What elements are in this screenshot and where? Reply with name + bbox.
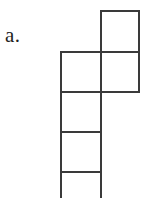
polyomino-diagram	[0, 0, 146, 198]
figure-container: a.	[0, 0, 146, 198]
polyomino-cell-group	[61, 11, 139, 198]
cell-r2-c0	[61, 92, 101, 132]
cell-r4-c0	[61, 172, 101, 198]
cell-r3-c0	[61, 132, 101, 172]
cell-r0-c1	[101, 11, 139, 52]
cell-r1-c0	[61, 52, 101, 92]
cell-r1-c1	[101, 52, 139, 92]
